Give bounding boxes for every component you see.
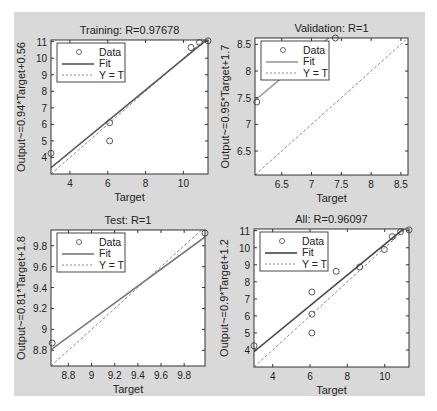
x-axis-label: Target — [316, 192, 347, 204]
legend-label: Y = T — [99, 69, 125, 81]
legend-label: Fit — [303, 55, 315, 67]
x-tick-label: 9 — [89, 370, 95, 381]
y-tick-label: 8 — [245, 66, 251, 77]
legend-label: Fit — [302, 246, 314, 258]
regression-figure: 468104567891011Training: R=0.97678Target… — [0, 0, 437, 411]
subplot-training: 468104567891011Training: R=0.97678Target… — [15, 24, 211, 203]
x-axis-label: Target — [316, 384, 347, 396]
y-tick-label: 9 — [41, 324, 47, 335]
legend-label: Y = T — [303, 67, 329, 79]
x-axis-label: Target — [113, 383, 144, 395]
y-tick-label: 9 — [244, 260, 250, 271]
x-tick-label: 8 — [143, 178, 149, 189]
y-tick-label: 6 — [41, 119, 47, 130]
y-tick-label: 7 — [244, 294, 250, 305]
x-tick-label: 7 — [309, 179, 315, 190]
legend-label: Y = T — [302, 258, 328, 270]
y-tick-label: 8 — [41, 86, 47, 97]
legend-label: Data — [303, 44, 325, 56]
y-tick-label: 10 — [36, 53, 48, 64]
x-tick-label: 6 — [307, 371, 313, 382]
x-tick-label: 7.5 — [334, 179, 348, 190]
y-tick-label: 8 — [244, 277, 250, 288]
x-tick-label: 8 — [345, 371, 351, 382]
subplot-title: Validation: R=1 — [294, 22, 368, 34]
x-tick-label: 8.5 — [394, 179, 408, 190]
subplot-title: Training: R=0.97678 — [80, 24, 180, 36]
y-tick-label: 7 — [245, 119, 251, 130]
subplot-title: All: R=0.96097 — [295, 213, 367, 225]
x-tick-label: 6.5 — [275, 179, 289, 190]
y-tick-label: 6.5 — [237, 146, 251, 157]
legend-label: Fit — [99, 57, 111, 69]
legend: DataFitY = T — [260, 232, 328, 271]
x-tick-label: 8.8 — [61, 370, 75, 381]
y-axis-label: Output~=0.81*Target+1.8 — [15, 236, 27, 360]
y-tick-label: 4 — [244, 345, 250, 356]
y-tick-label: 7.5 — [237, 93, 251, 104]
y-tick-label: 8.5 — [237, 39, 251, 50]
y-tick-label: 5 — [244, 328, 250, 339]
y-axis-label: Output~=0.95*Target+1.7 — [219, 45, 231, 169]
y-tick-label: 9.8 — [33, 241, 47, 252]
y-tick-label: 9.4 — [33, 283, 47, 294]
x-tick-label: 10 — [178, 178, 190, 189]
y-tick-label: 4 — [41, 152, 47, 163]
y-tick-label: 11 — [37, 37, 48, 48]
y-axis-label: Output~=0.94*Target+0.56 — [15, 42, 27, 172]
y-tick-label: 9 — [41, 70, 47, 81]
x-tick-label: 9.8 — [177, 370, 191, 381]
y-tick-label: 9.2 — [33, 303, 47, 314]
subplot-test: 8.899.29.49.69.88.899.29.49.69.8Test: R=… — [15, 214, 208, 395]
x-tick-label: 9.6 — [154, 370, 168, 381]
y-tick-label: 6 — [244, 311, 250, 322]
legend-label: Y = T — [99, 259, 125, 271]
legend-label: Data — [99, 46, 121, 58]
x-tick-label: 10 — [379, 371, 391, 382]
y-tick-label: 7 — [41, 103, 47, 114]
x-tick-label: 6 — [105, 178, 111, 189]
subplot-validation: 6.577.588.56.577.588.5Validation: R=1Tar… — [219, 0, 408, 204]
y-tick-label: 10 — [239, 243, 251, 254]
legend: DataFitY = T — [261, 41, 329, 80]
legend-label: Data — [302, 235, 324, 247]
x-tick-label: 4 — [67, 178, 73, 189]
x-tick-label: 8 — [368, 179, 374, 190]
legend-label: Data — [99, 236, 121, 248]
x-tick-label: 4 — [270, 371, 276, 382]
x-tick-label: 9.2 — [108, 370, 122, 381]
legend: DataFitY = T — [57, 43, 125, 82]
y-tick-label: 11 — [240, 226, 251, 237]
legend-label: Fit — [99, 247, 111, 259]
subplot-title: Test: R=1 — [105, 214, 152, 226]
x-axis-label: Target — [114, 191, 145, 203]
y-tick-label: 5 — [41, 136, 47, 147]
legend: DataFitY = T — [57, 233, 125, 272]
y-tick-label: 8.8 — [33, 345, 47, 356]
y-axis-label: Output~=0.9*Target+1.2 — [218, 239, 230, 357]
x-tick-label: 9.4 — [131, 370, 145, 381]
subplot-all: 468104567891011All: R=0.96097TargetOutpu… — [218, 213, 412, 396]
y-tick-label: 9.6 — [33, 262, 47, 273]
